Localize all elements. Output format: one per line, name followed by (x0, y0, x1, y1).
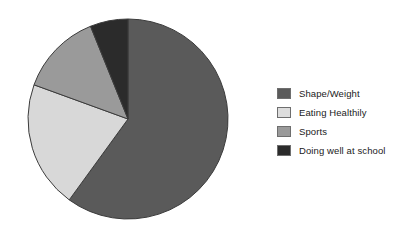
legend-item-doing-well-at-school[interactable]: Doing well at school (277, 141, 407, 160)
legend-swatch-icon-eating-healthily (277, 107, 291, 118)
legend-label-sports: Sports (299, 126, 327, 137)
pie-chart-figure: Shape/Weight Eating Healthily Sports Doi… (0, 0, 410, 239)
legend-item-eating-healthily[interactable]: Eating Healthily (277, 103, 407, 122)
chart-legend: Shape/Weight Eating Healthily Sports Doi… (277, 84, 407, 160)
pie-chart-svg (0, 0, 262, 239)
legend-item-shape-weight[interactable]: Shape/Weight (277, 84, 407, 103)
pie-slice-group (28, 19, 228, 219)
legend-swatch-icon-sports (277, 126, 291, 137)
legend-item-sports[interactable]: Sports (277, 122, 407, 141)
legend-swatch-icon-shape-weight (277, 88, 291, 99)
legend-label-doing-well-at-school: Doing well at school (299, 145, 386, 156)
legend-swatch-icon-doing-well-at-school (277, 145, 291, 156)
legend-label-eating-healthily: Eating Healthily (299, 107, 367, 118)
legend-label-shape-weight: Shape/Weight (299, 88, 360, 99)
pie-chart-plot-area (0, 0, 262, 239)
